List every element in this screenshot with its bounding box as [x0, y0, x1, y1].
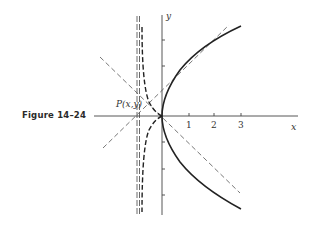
diagonal-dashed-line: [100, 57, 240, 193]
x-tick-label-2: 2: [211, 120, 217, 130]
y-axis-label: y: [165, 11, 172, 21]
x-axis-label: x: [291, 121, 297, 132]
parabola-curve: [162, 26, 241, 209]
x-tick-label-3: 3: [238, 120, 244, 130]
asymptote-line: [137, 16, 140, 214]
dashed-curve-lower: [142, 116, 162, 212]
dashed-curve-upper: [142, 27, 162, 116]
figure-plot: y x 1 2 3 P(x,y): [0, 0, 313, 229]
point-label: P(x,y): [115, 99, 143, 109]
x-tick-label-1: 1: [186, 120, 192, 130]
axes: [94, 15, 298, 215]
